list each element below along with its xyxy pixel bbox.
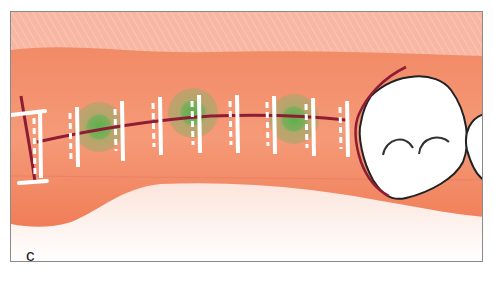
dental-suture-illustration: c bbox=[10, 11, 483, 262]
illustration-canvas bbox=[11, 12, 483, 262]
panel-label: c bbox=[26, 246, 35, 262]
